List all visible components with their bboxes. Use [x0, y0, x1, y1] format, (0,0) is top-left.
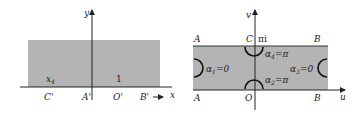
alpha3-label: α3=0	[290, 64, 313, 75]
point-a-prime: A'	[81, 92, 91, 102]
x-axis-label: x	[170, 90, 175, 100]
left-panel: y x x4 1 C' A' O' B'	[20, 8, 175, 102]
diagram-canvas: y x x4 1 C' A' O' B' v u A C πi B A O B …	[0, 0, 360, 115]
point-b-prime: B'	[139, 92, 149, 102]
alpha1-label: α1=0	[206, 64, 229, 75]
one-label: 1	[116, 74, 122, 84]
origin-o-label: O	[245, 93, 253, 103]
v-axis-label: v	[246, 10, 251, 20]
right-panel: v u A C πi B A O B α1=0 α4=π α3=0 α2=π	[193, 10, 346, 110]
alpha4-label: α4=π	[265, 49, 289, 60]
point-o-prime: O'	[113, 92, 123, 102]
top-c-label: C	[246, 34, 253, 44]
point-c-prime: C'	[44, 92, 53, 102]
top-right-b-label: B	[313, 34, 321, 44]
bottom-right-b-label: B	[313, 93, 321, 103]
u-axis-label: u	[340, 92, 346, 102]
alpha2-label: α2=π	[265, 75, 289, 86]
pi-i-label: πi	[258, 34, 267, 44]
top-left-a-label: A	[193, 34, 201, 44]
y-axis-label: y	[83, 8, 90, 18]
bottom-left-a-label: A	[193, 93, 201, 103]
